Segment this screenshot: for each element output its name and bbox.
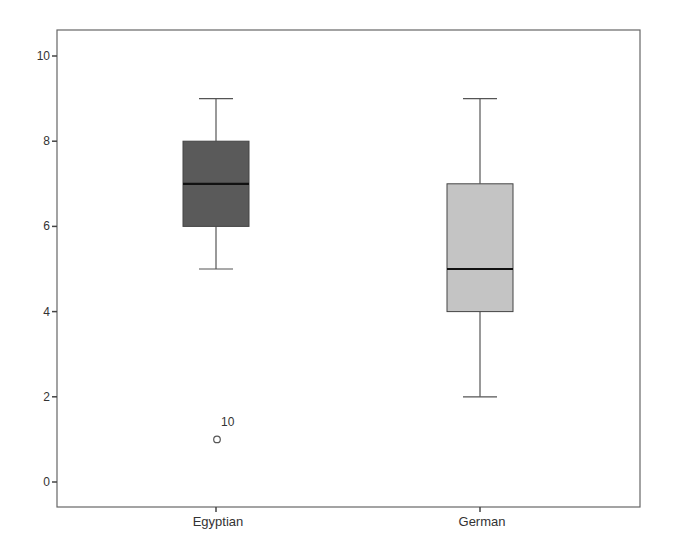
y-tick-label: 0	[43, 475, 50, 489]
x-tick-label: Egyptian	[193, 514, 244, 529]
outlier-label: 10	[221, 415, 235, 429]
y-tick-label: 8	[43, 134, 50, 148]
y-tick-label: 6	[43, 219, 50, 233]
box-german	[447, 184, 513, 312]
plot-frame	[57, 30, 640, 507]
y-tick-label: 4	[43, 305, 50, 319]
x-tick-label: German	[459, 514, 506, 529]
y-tick-label: 2	[43, 390, 50, 404]
y-tick-label: 10	[37, 49, 51, 63]
outlier-marker	[214, 436, 221, 443]
boxplot-chart: 024681010EgyptianGerman	[0, 0, 675, 556]
